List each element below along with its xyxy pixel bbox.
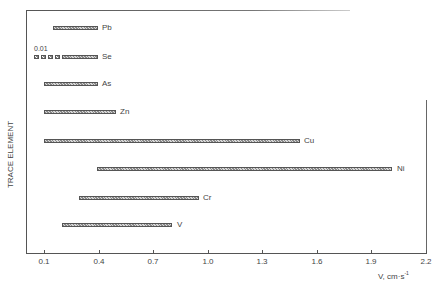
bar-cr	[79, 196, 199, 200]
x-tick-label: 0.1	[38, 257, 49, 266]
bar-label-cu: Cu	[304, 136, 314, 145]
y-axis-label: TRACE ELEMENT	[6, 115, 15, 195]
bar-label-v: V	[177, 220, 182, 229]
bar-label-pb: Pb	[102, 23, 112, 32]
x-tick	[44, 250, 45, 254]
x-tick-label: 1.0	[202, 257, 213, 266]
x-tick-label: 0.7	[147, 257, 158, 266]
bar-cu	[44, 139, 300, 143]
bar-label-as: As	[102, 79, 111, 88]
x-tick	[262, 250, 263, 254]
x-tick	[99, 250, 100, 254]
bar-label-cr: Cr	[203, 193, 211, 202]
bar-label-ni: Ni	[397, 164, 405, 173]
x-tick-label: 2.2	[420, 257, 431, 266]
frame-right-border	[426, 100, 427, 254]
bar-ni	[97, 167, 392, 171]
x-tick	[153, 250, 154, 254]
bar-label-se: Se	[102, 52, 112, 61]
x-tick	[208, 250, 209, 254]
x-tick-label: 1.6	[311, 257, 322, 266]
bar-as	[44, 82, 98, 86]
x-tick-label: 1.3	[256, 257, 267, 266]
x-tick	[426, 250, 427, 254]
frame-top-border	[26, 10, 350, 11]
x-tick-label: 0.4	[93, 257, 104, 266]
x-tick	[317, 250, 318, 254]
bar-v	[62, 223, 172, 227]
y-axis	[26, 10, 27, 254]
x-tick	[371, 250, 372, 254]
bar-se	[62, 55, 98, 59]
x-axis	[26, 253, 427, 254]
bar-zn	[44, 110, 116, 114]
x-tick-label: 1.9	[365, 257, 376, 266]
x-axis-label: V, cm·s-1	[378, 270, 409, 281]
se-min-annotation: 0.01	[34, 45, 48, 52]
bar-pb	[53, 26, 98, 30]
bar-label-zn: Zn	[120, 107, 129, 116]
se-dotted-extension	[34, 55, 60, 59]
